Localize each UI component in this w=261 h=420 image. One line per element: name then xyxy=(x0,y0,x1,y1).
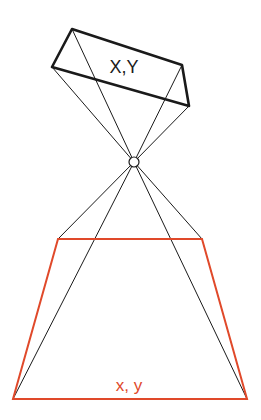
upper-rays xyxy=(52,29,189,162)
ray-to-bottom-left xyxy=(13,162,134,399)
object-plane xyxy=(13,239,247,399)
lower-rays xyxy=(13,162,247,399)
ray-right-top-corner xyxy=(134,65,182,162)
ray-to-top-left xyxy=(58,162,134,239)
ray-top-corner xyxy=(72,29,134,162)
ray-to-bottom-right xyxy=(134,162,247,399)
image-plane-label: X,Y xyxy=(109,57,138,77)
ray-left-corner xyxy=(52,67,134,162)
ray-to-top-right xyxy=(134,162,202,239)
projection-diagram: X,Y x, y xyxy=(0,0,261,420)
ray-right-bottom-corner xyxy=(134,106,189,162)
pinhole-icon xyxy=(129,157,139,167)
object-plane-label: x, y xyxy=(116,376,143,395)
